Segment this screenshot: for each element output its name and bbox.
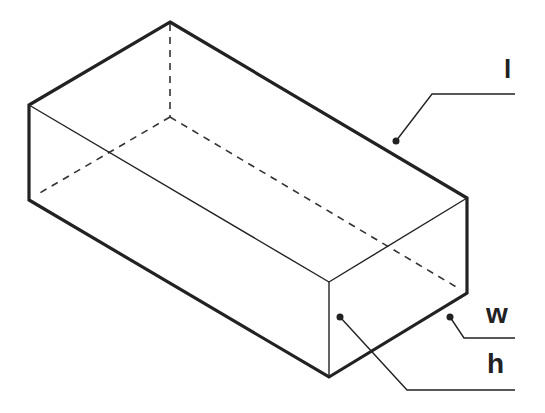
outline-silhouette xyxy=(29,22,467,377)
hidden-left-edge xyxy=(38,117,170,194)
inner-edges xyxy=(29,105,467,377)
box-diagram: l w h xyxy=(0,0,545,413)
width-label: w xyxy=(486,300,508,328)
callout-dots xyxy=(337,138,454,321)
prism-drawing xyxy=(0,0,545,413)
length-dot-icon xyxy=(393,138,400,145)
length-label: l xyxy=(504,56,511,82)
top-front-width-edge xyxy=(329,198,467,282)
length-leader-line xyxy=(396,94,515,141)
top-front-length-edge xyxy=(29,105,329,282)
height-dot-icon xyxy=(337,314,344,321)
hidden-length-edge xyxy=(170,117,458,288)
width-dot-icon xyxy=(447,314,454,321)
height-label: h xyxy=(487,350,504,378)
